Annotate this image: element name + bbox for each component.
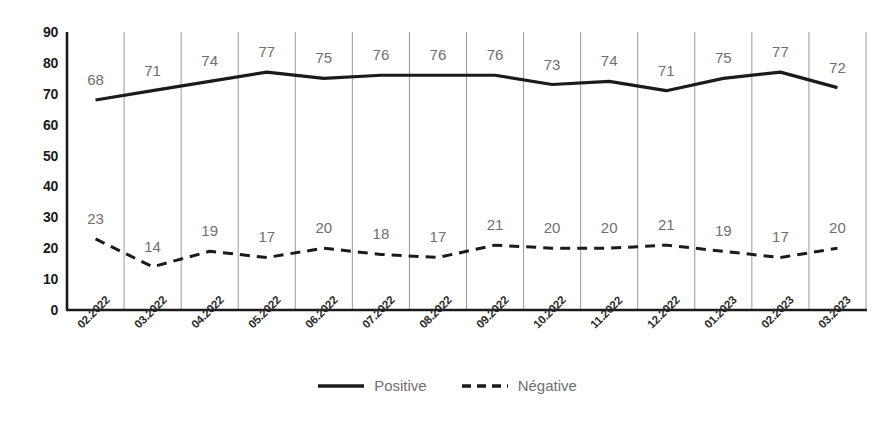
data-value-label: 68	[73, 72, 119, 87]
legend-item-positive[interactable]: Positive	[317, 378, 427, 393]
data-value-label: 74	[586, 53, 632, 68]
legend-solid-line-icon	[317, 381, 365, 391]
data-value-label: 19	[187, 223, 233, 238]
data-value-label: 20	[814, 220, 860, 235]
data-value-label: 77	[244, 44, 290, 59]
y-axis-tick: 0	[28, 303, 58, 317]
data-value-label: 72	[814, 60, 860, 75]
data-value-label: 23	[73, 211, 119, 226]
y-axis-tick: 10	[28, 272, 58, 286]
y-axis-tick: 70	[28, 87, 58, 101]
data-value-label: 77	[757, 44, 803, 59]
data-value-label: 76	[472, 47, 518, 62]
data-value-label: 20	[586, 220, 632, 235]
line-chart: 0102030405060708090 02.202203.202204.202…	[0, 0, 894, 429]
legend-item-negative[interactable]: Négative	[461, 378, 577, 393]
data-value-label: 20	[301, 220, 347, 235]
y-axis-tick: 90	[28, 25, 58, 39]
data-value-label: 17	[244, 229, 290, 244]
data-value-label: 18	[358, 226, 404, 241]
data-value-label: 75	[301, 50, 347, 65]
data-value-label: 19	[700, 223, 746, 238]
data-value-label: 20	[529, 220, 575, 235]
data-value-label: 73	[529, 57, 575, 72]
y-axis-tick: 60	[28, 118, 58, 132]
data-value-label: 75	[700, 50, 746, 65]
y-axis-tick: 80	[28, 56, 58, 70]
y-axis-tick: 30	[28, 210, 58, 224]
data-value-label: 21	[472, 217, 518, 232]
data-value-label: 76	[415, 47, 461, 62]
data-value-label: 74	[187, 53, 233, 68]
y-axis-tick: 40	[28, 179, 58, 193]
data-value-label: 21	[643, 217, 689, 232]
data-value-label: 17	[415, 229, 461, 244]
chart-legend: Positive Négative	[0, 378, 894, 393]
legend-dashed-line-icon	[461, 381, 509, 391]
data-value-label: 76	[358, 47, 404, 62]
y-axis-tick: 20	[28, 241, 58, 255]
legend-label-negative: Négative	[518, 378, 577, 393]
data-value-label: 17	[757, 229, 803, 244]
data-value-label: 71	[130, 63, 176, 78]
legend-label-positive: Positive	[374, 378, 427, 393]
y-axis-tick: 50	[28, 149, 58, 163]
data-value-label: 14	[130, 239, 176, 254]
data-value-label: 71	[643, 63, 689, 78]
